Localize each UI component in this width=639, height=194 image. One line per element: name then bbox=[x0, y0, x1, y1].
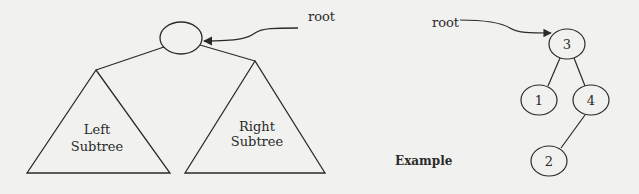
node-1-label: 1 bbox=[535, 93, 543, 108]
right-subtree-label-line2: Subtree bbox=[231, 134, 284, 149]
edge-root-right bbox=[200, 45, 255, 61]
edge-root-left bbox=[96, 47, 164, 70]
left-subtree-label-line2: Subtree bbox=[71, 139, 124, 154]
right-subtree-triangle bbox=[185, 61, 325, 173]
root-node bbox=[160, 22, 202, 54]
example-caption: Example bbox=[395, 154, 453, 168]
example-root-pointer-arrow bbox=[460, 20, 551, 33]
binary-tree-diagram: root Left Subtree Right Subtree root 3 1… bbox=[0, 0, 639, 194]
right-subtree-label-line1: Right bbox=[239, 119, 276, 134]
example-root-label: root bbox=[432, 15, 460, 30]
left-subtree-label-line1: Left bbox=[84, 122, 111, 137]
root-label: root bbox=[308, 9, 336, 24]
root-pointer-arrow bbox=[204, 28, 298, 41]
node-4-label: 4 bbox=[587, 93, 595, 108]
edge-3-1 bbox=[548, 58, 560, 86]
edge-4-2 bbox=[561, 115, 585, 148]
node-3-label: 3 bbox=[563, 37, 571, 52]
edge-3-4 bbox=[574, 58, 585, 86]
node-2-label: 2 bbox=[545, 154, 553, 169]
